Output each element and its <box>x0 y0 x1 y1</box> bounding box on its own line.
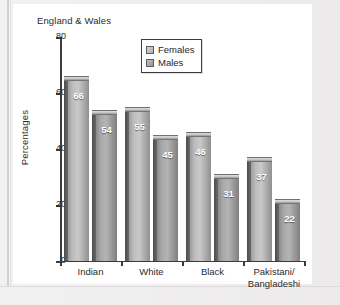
bar-white-females[interactable]: 55 <box>125 107 150 261</box>
bar-top-edge <box>186 132 211 133</box>
y-tick-label-0: 0 <box>38 255 66 265</box>
bar-face <box>279 199 300 261</box>
x-category-line1: White <box>121 266 182 278</box>
legend-item-males[interactable]: Males <box>146 56 194 69</box>
y-tick-label-60: 60 <box>38 87 66 97</box>
bar-indian-males[interactable]: 54 <box>92 110 117 261</box>
bar-top-edge <box>92 110 117 111</box>
legend: Females Males <box>141 39 202 73</box>
bar-value-label: 22 <box>279 213 300 224</box>
left-margin-rule-secondary <box>10 0 11 286</box>
x-category-label-indian: Indian <box>60 266 121 278</box>
bar-value-label: 45 <box>157 149 178 160</box>
bar-black-males[interactable]: 31 <box>214 174 239 261</box>
bar-black-females[interactable]: 46 <box>186 132 211 261</box>
y-tick-label-80: 80 <box>38 31 66 41</box>
y-tick-label-20: 20 <box>38 199 66 209</box>
x-category-line1: Pakistani/ <box>241 266 307 278</box>
x-category-line2: Bangladeshi <box>241 278 307 290</box>
bar-white-males[interactable]: 45 <box>153 135 178 261</box>
bar-value-label: 66 <box>68 90 89 101</box>
x-category-label-white: White <box>121 266 182 278</box>
x-category-line1: Black <box>182 266 243 278</box>
bar-value-label: 37 <box>251 171 272 182</box>
bar-value-label: 31 <box>218 188 239 199</box>
bar-value-label: 46 <box>190 146 211 157</box>
bar-pakistani-bangladeshi-males[interactable]: 22 <box>275 199 300 261</box>
bar-top-edge <box>247 157 272 158</box>
females-swatch-icon <box>146 46 154 54</box>
y-axis-title: Percentages <box>19 83 30 193</box>
x-category-label-pakistani-bangladeshi: Pakistani/ Bangladeshi <box>241 266 307 289</box>
bar-top-edge <box>64 76 89 77</box>
legend-item-females[interactable]: Females <box>146 43 194 56</box>
bar-indian-females[interactable]: 66 <box>64 76 89 261</box>
bar-top-edge <box>153 135 178 136</box>
x-category-line1: Indian <box>60 266 121 278</box>
y-tick-label-40: 40 <box>38 143 66 153</box>
legend-label-females: Females <box>158 44 194 55</box>
bar-value-label: 54 <box>96 124 117 135</box>
bar-top-edge <box>214 174 239 175</box>
bar-top-edge <box>125 107 150 108</box>
plot-area: Percentages 80 60 40 20 0 66 <box>13 4 312 284</box>
bar-pakistani-bangladeshi-females[interactable]: 37 <box>247 157 272 261</box>
legend-label-males: Males <box>158 57 183 68</box>
chart-card: England & Wales Percentages 80 60 40 20 … <box>13 4 312 284</box>
males-swatch-icon <box>146 59 154 67</box>
bar-value-label: 55 <box>129 121 150 132</box>
x-category-label-black: Black <box>182 266 243 278</box>
bar-face <box>68 76 89 261</box>
bar-top-edge <box>275 199 300 200</box>
left-margin-rule <box>7 0 9 286</box>
